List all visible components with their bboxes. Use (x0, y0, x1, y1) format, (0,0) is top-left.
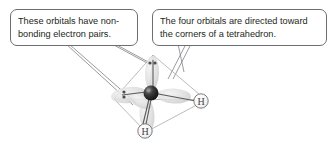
callout-left-line-2: bonding electron pairs. (18, 28, 130, 41)
callout-right-line-2: the corners of a tetrahedron. (160, 28, 319, 41)
hydrogen-atom-bottom: H (138, 124, 152, 138)
hydrogen-label-bottom: H (141, 126, 148, 137)
leader-lines-right (168, 44, 191, 79)
callout-right-line-1: The four orbitals are directed toward (160, 15, 319, 28)
callout-tetrahedron: The four orbitals are directed toward th… (152, 9, 327, 46)
oxygen-atom (144, 86, 159, 101)
figure-canvas: H H These orbitals have non- bonding ele… (0, 0, 335, 146)
callout-left-line-1: These orbitals have non- (18, 15, 130, 28)
callout-nonbonding-pairs: These orbitals have non- bonding electro… (10, 9, 138, 46)
hydrogen-atom-right: H (194, 94, 208, 108)
hydrogen-label-right: H (197, 96, 204, 107)
